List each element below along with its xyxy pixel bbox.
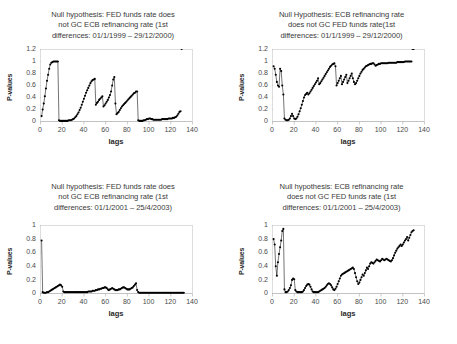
panel-title: Null hypothesis: FED funds rate does not… bbox=[0, 0, 226, 41]
plot-frame bbox=[273, 50, 425, 122]
y-tick-label: 0.4 bbox=[14, 93, 36, 100]
y-tick-label: 0.2 bbox=[14, 276, 36, 283]
y-tick-label: 0.6 bbox=[14, 81, 36, 88]
data-markers bbox=[273, 49, 415, 121]
data-markers bbox=[41, 240, 185, 294]
data-markers bbox=[41, 49, 183, 122]
x-tick-label: 140 bbox=[414, 298, 434, 305]
x-tick-label: 100 bbox=[371, 298, 391, 305]
x-axis-label: lags bbox=[40, 137, 192, 146]
x-tick-label: 80 bbox=[117, 126, 137, 133]
x-tick-label: 120 bbox=[392, 126, 412, 133]
x-tick-label: 20 bbox=[284, 298, 304, 305]
x-tick-label: 120 bbox=[392, 298, 412, 305]
panel-bottom-right: Null hypothesis: ECB refinancing rate do… bbox=[226, 172, 457, 344]
x-tick-label: 20 bbox=[52, 298, 72, 305]
panel-title: Null hypothesis: FED funds rate does not… bbox=[0, 172, 226, 213]
x-tick-label: 0 bbox=[30, 126, 50, 133]
plot-canvas bbox=[272, 49, 426, 127]
y-tick-label: 0.2 bbox=[14, 105, 36, 112]
y-tick-label: 1 bbox=[246, 221, 268, 228]
plot-frame bbox=[273, 226, 425, 294]
x-tick-label: 60 bbox=[327, 126, 347, 133]
data-series-line bbox=[274, 62, 412, 121]
y-tick-label: 0.8 bbox=[246, 235, 268, 242]
y-tick-label: 0 bbox=[14, 117, 36, 124]
panel-top-left: Null hypothesis: FED funds rate does not… bbox=[0, 0, 226, 172]
y-axis-label: P-values bbox=[238, 248, 245, 275]
x-tick-label: 40 bbox=[305, 126, 325, 133]
x-tick-label: 0 bbox=[262, 298, 282, 305]
x-tick-label: 60 bbox=[327, 298, 347, 305]
figure-grid: Null hypothesis: FED funds rate does not… bbox=[0, 0, 457, 344]
x-axis-label: lags bbox=[40, 309, 192, 318]
x-tick-label: 80 bbox=[349, 298, 369, 305]
x-tick-label: 40 bbox=[73, 298, 93, 305]
y-tick-label: 0.8 bbox=[246, 69, 268, 76]
x-tick-label: 0 bbox=[30, 298, 50, 305]
y-tick-label: 0.6 bbox=[14, 248, 36, 255]
y-tick-label: 0.4 bbox=[246, 93, 268, 100]
x-axis-label: lags bbox=[272, 309, 424, 318]
y-tick-label: 0 bbox=[246, 117, 268, 124]
y-tick-label: 0.2 bbox=[246, 105, 268, 112]
plot-frame bbox=[41, 226, 193, 294]
y-tick-label: 1.2 bbox=[14, 45, 36, 52]
x-tick-label: 100 bbox=[139, 126, 159, 133]
y-tick-label: 1 bbox=[14, 221, 36, 228]
x-tick-label: 100 bbox=[139, 298, 159, 305]
y-tick-label: 0.4 bbox=[14, 262, 36, 269]
y-tick-label: 0 bbox=[246, 289, 268, 296]
plot-canvas bbox=[272, 225, 426, 299]
panel-title: Null Hypothesis: ECB refinancing rate do… bbox=[226, 0, 457, 41]
y-tick-label: 0.6 bbox=[246, 248, 268, 255]
y-tick-label: 1.2 bbox=[246, 45, 268, 52]
x-tick-label: 120 bbox=[160, 298, 180, 305]
data-markers bbox=[273, 228, 415, 293]
x-tick-label: 80 bbox=[117, 298, 137, 305]
x-axis-label: lags bbox=[272, 137, 424, 146]
x-tick-label: 100 bbox=[371, 126, 391, 133]
panel-title: Null hypothesis: ECB refinancing rate do… bbox=[226, 172, 457, 213]
y-tick-label: 0.8 bbox=[14, 69, 36, 76]
x-tick-label: 140 bbox=[182, 298, 202, 305]
plot-frame bbox=[41, 50, 193, 122]
x-tick-label: 60 bbox=[95, 126, 115, 133]
y-tick-label: 1 bbox=[246, 57, 268, 64]
plot-canvas bbox=[40, 49, 194, 127]
x-tick-label: 140 bbox=[414, 126, 434, 133]
x-tick-label: 40 bbox=[73, 126, 93, 133]
x-tick-label: 40 bbox=[305, 298, 325, 305]
y-axis-label: P-values bbox=[6, 248, 13, 275]
x-tick-label: 0 bbox=[262, 126, 282, 133]
x-tick-label: 20 bbox=[284, 126, 304, 133]
panel-bottom-left: Null hypothesis: FED funds rate does not… bbox=[0, 172, 226, 344]
y-axis-label: P-values bbox=[238, 74, 245, 101]
y-tick-label: 1 bbox=[14, 57, 36, 64]
plot-canvas bbox=[40, 225, 194, 299]
x-tick-label: 80 bbox=[349, 126, 369, 133]
x-tick-label: 140 bbox=[182, 126, 202, 133]
data-series-line bbox=[42, 241, 184, 293]
y-tick-label: 0.2 bbox=[246, 276, 268, 283]
y-tick-label: 0.4 bbox=[246, 262, 268, 269]
panel-top-right: Null Hypothesis: ECB refinancing rate do… bbox=[226, 0, 457, 172]
x-tick-label: 20 bbox=[52, 126, 72, 133]
y-tick-label: 0 bbox=[14, 289, 36, 296]
y-tick-label: 0.6 bbox=[246, 81, 268, 88]
x-tick-label: 120 bbox=[160, 126, 180, 133]
y-axis-label: P-values bbox=[6, 74, 13, 101]
x-tick-label: 60 bbox=[95, 298, 115, 305]
y-tick-label: 0.8 bbox=[14, 235, 36, 242]
